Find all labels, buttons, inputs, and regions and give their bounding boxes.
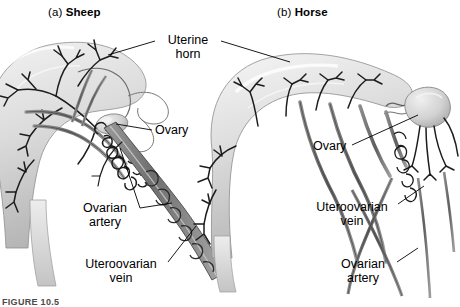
label-uterine-horn-line1: Uterine	[157, 33, 219, 47]
horse-panel-graphic	[194, 54, 458, 298]
panel-name-horse: Horse	[295, 6, 328, 18]
label-ovarian-artery-sheep-line2: artery	[70, 215, 140, 229]
leader-ovary-horse	[352, 115, 418, 145]
label-ovarian-artery-horse: Ovarian artery	[330, 257, 396, 285]
figure-root: (a) Sheep (b) Horse Uterine horn Ovary O…	[0, 0, 460, 307]
label-ovarian-artery-sheep-line1: Ovarian	[70, 201, 140, 215]
panel-title-sheep: (a) Sheep	[48, 6, 101, 18]
label-uteroovarian-vein-sheep-line1: Uteroovarian	[76, 257, 166, 271]
horse-ovary	[405, 87, 451, 127]
leader-ovarian-artery-horse	[397, 248, 418, 262]
figure-caption: FIGURE 10.5	[2, 297, 59, 307]
label-ovary-sheep: Ovary	[155, 123, 188, 137]
label-uteroovarian-vein-sheep: Uteroovarian vein	[76, 257, 166, 285]
label-uteroovarian-vein-sheep-line2: vein	[76, 271, 166, 285]
label-ovary-horse: Ovary	[313, 139, 346, 153]
label-ovarian-artery-horse-line2: artery	[330, 271, 396, 285]
label-uterine-horn-line2: horn	[157, 47, 219, 61]
label-uteroovarian-vein-horse-line1: Uteroovarian	[307, 200, 397, 214]
panel-letter-a: (a)	[48, 6, 62, 18]
sheep-horn-lower	[30, 200, 56, 286]
panel-title-horse: (b) Horse	[277, 6, 328, 18]
panel-name-sheep: Sheep	[66, 6, 101, 18]
leader-uterine-horn-horse	[221, 41, 290, 62]
label-uteroovarian-vein-horse-line2: vein	[307, 214, 397, 228]
leader-uterine-horn-sheep	[108, 41, 155, 55]
label-uterine-horn: Uterine horn	[157, 33, 219, 61]
horse-lower-right-vessels	[418, 172, 454, 298]
label-ovarian-artery-horse-line1: Ovarian	[330, 257, 396, 271]
label-uteroovarian-vein-horse: Uteroovarian vein	[307, 200, 397, 228]
horse-horn-lower	[214, 236, 236, 292]
sheep-panel-graphic	[0, 40, 226, 286]
panel-letter-b: (b)	[277, 6, 291, 18]
horse-vessel-edges	[300, 102, 386, 264]
label-ovarian-artery-sheep: Ovarian artery	[70, 201, 140, 229]
